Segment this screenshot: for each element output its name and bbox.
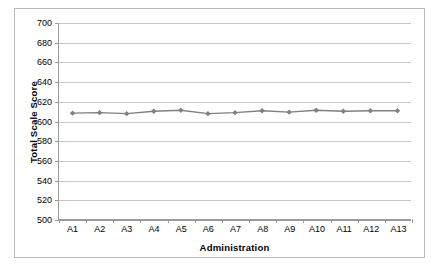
- x-tick-mark-A12: [385, 219, 386, 223]
- x-tick-mark-A1: [86, 219, 87, 223]
- y-tick-label-560: 560: [37, 156, 52, 165]
- y-tick-label-580: 580: [37, 137, 52, 146]
- x-tick-mark-A11: [358, 219, 359, 223]
- data-point-A13: [395, 108, 400, 113]
- x-tick-mark-A5: [195, 219, 196, 223]
- data-point-A8: [259, 108, 264, 113]
- y-tick-label-680: 680: [37, 38, 52, 47]
- data-point-A6: [205, 111, 210, 116]
- y-tick-label-540: 540: [37, 176, 52, 185]
- x-tick-label-A2: A2: [94, 225, 105, 234]
- data-point-A10: [314, 108, 319, 113]
- x-tick-label-A11: A11: [336, 225, 351, 234]
- x-tick-label-A9: A9: [284, 225, 295, 234]
- x-axis-title: Administration: [58, 242, 411, 253]
- data-point-A2: [97, 110, 102, 115]
- x-tick-label-A6: A6: [203, 225, 214, 234]
- y-tick-label-600: 600: [37, 117, 52, 126]
- data-point-A7: [232, 110, 237, 115]
- data-point-A5: [178, 108, 183, 113]
- x-tick-mark-A4: [168, 219, 169, 223]
- data-series-line-chart: [59, 23, 411, 219]
- x-tick-label-A3: A3: [121, 225, 132, 234]
- x-tick-label-A5: A5: [176, 225, 187, 234]
- x-tick-mark-A10: [331, 219, 332, 223]
- x-tick-label-A13: A13: [390, 225, 406, 234]
- x-tick-mark-A6: [222, 219, 223, 223]
- y-tick-label-660: 660: [37, 58, 52, 67]
- y-tick-label-620: 620: [37, 97, 52, 106]
- data-point-A3: [124, 111, 129, 116]
- x-tick-label-A12: A12: [363, 225, 379, 234]
- data-point-A1: [70, 110, 75, 115]
- y-tick-label-500: 500: [37, 216, 52, 225]
- x-tick-label-A10: A10: [309, 225, 325, 234]
- data-point-A12: [368, 108, 373, 113]
- y-tick-label-640: 640: [37, 78, 52, 87]
- chart-frame: Total Scale Score 7006806606406206005805…: [14, 8, 425, 258]
- plot-area: 700680660640620600580560540520500 A1A2A3…: [58, 23, 411, 220]
- x-tick-mark-A8: [276, 219, 277, 223]
- x-tick-label-A1: A1: [67, 225, 78, 234]
- x-tick-mark-A2: [113, 219, 114, 223]
- x-tick-label-A8: A8: [257, 225, 268, 234]
- data-point-A9: [286, 109, 291, 114]
- x-tick-mark-A7: [249, 219, 250, 223]
- x-tick-label-A7: A7: [230, 225, 241, 234]
- y-tick-label-700: 700: [37, 19, 52, 28]
- y-tick-label-520: 520: [37, 196, 52, 205]
- x-tick-mark-origin: [59, 219, 60, 223]
- x-tick-mark-A9: [303, 219, 304, 223]
- x-tick-label-A4: A4: [149, 225, 160, 234]
- x-tick-mark-A3: [140, 219, 141, 223]
- x-tick-mark-A13: [412, 219, 413, 223]
- series-markers-group: [70, 108, 400, 117]
- data-point-A4: [151, 109, 156, 114]
- data-point-A11: [341, 109, 346, 114]
